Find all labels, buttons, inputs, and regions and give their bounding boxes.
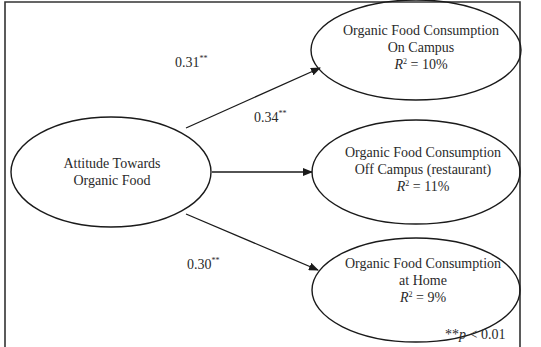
coefficient-off-campus: 0.34**	[254, 109, 287, 126]
home-r2: R2 = 9%	[345, 289, 501, 306]
significance-note: **p < 0.01	[445, 326, 505, 343]
on-campus-r2: R2 = 10%	[343, 56, 499, 73]
coefficient-on-campus: 0.31**	[175, 54, 208, 71]
off-campus-label: Organic Food Consumption Off Campus (res…	[345, 144, 501, 195]
on-campus-label: Organic Food Consumption On Campus R2 = …	[343, 22, 499, 73]
arrow-to-on-campus	[186, 68, 320, 128]
off-campus-r2: R2 = 11%	[345, 178, 501, 195]
coefficient-home: 0.30**	[187, 256, 220, 273]
home-label: Organic Food Consumption at Home R2 = 9%	[345, 255, 501, 306]
predictor-label: Attitude Towards Organic Food	[63, 155, 160, 189]
path-diagram: 0.31** 0.34** 0.30** Attitude Towards Or…	[0, 0, 541, 347]
